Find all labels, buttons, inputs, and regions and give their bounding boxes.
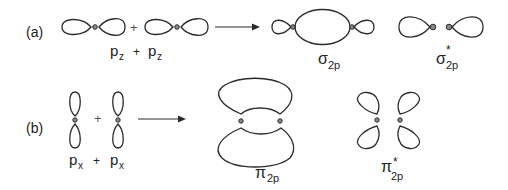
arrow-b	[138, 116, 186, 123]
sigma-star-2p-label: σ * 2p	[436, 43, 458, 71]
px1-nucleus	[73, 118, 77, 122]
svg-text:2p: 2p	[446, 59, 458, 71]
pi-star-bottom-right-lobe	[398, 126, 420, 149]
pi-star-bottom-left-lobe	[357, 126, 379, 149]
svg-text:p: p	[148, 42, 156, 59]
svg-text:*: *	[393, 155, 398, 169]
svg-text:z: z	[119, 51, 124, 62]
arrow-a	[215, 24, 260, 31]
pi-2p-label: π 2p	[255, 164, 279, 184]
part-b-label: (b)	[26, 120, 43, 136]
px-plus-px-label: p x + p x	[69, 151, 124, 171]
sigma-2p-label: σ 2p	[318, 50, 340, 71]
pi-star-2p-orbital	[357, 92, 419, 148]
pi-2p-orbital	[218, 78, 294, 167]
sigma-star-left-lobe	[399, 17, 430, 37]
px-orbital-1	[70, 92, 81, 148]
svg-text:π: π	[255, 164, 266, 181]
pi-star-nucleus-left	[375, 118, 379, 122]
sigma-2p-orbital	[272, 10, 374, 45]
svg-text:*: *	[446, 43, 451, 57]
px1-bottom-lobe	[70, 124, 81, 148]
sigma-left-minor-lobe	[272, 20, 291, 34]
part-a-label: (a)	[26, 24, 43, 40]
svg-text:+: +	[93, 154, 100, 168]
svg-text:σ: σ	[318, 50, 328, 67]
svg-text:x: x	[119, 160, 124, 171]
pz1-nucleus	[93, 25, 98, 30]
pi-bottom-lobe	[218, 128, 294, 167]
pz-plus-pz-label: p z + p z	[110, 42, 162, 62]
pz2-left-lobe	[145, 19, 173, 34]
pz1-left-lobe	[62, 19, 91, 34]
px2-nucleus	[116, 118, 120, 122]
svg-text:+: +	[133, 45, 140, 59]
pi-top-lobe	[219, 78, 292, 114]
sigma-central-lobe	[295, 10, 350, 45]
sigma-star-nucleus-left	[430, 24, 436, 30]
svg-text:p: p	[110, 151, 118, 168]
pi-star-nucleus-right	[398, 118, 402, 122]
sigma-star-right-lobe	[452, 17, 483, 37]
pz-orbital-2	[145, 19, 208, 36]
svg-text:2p: 2p	[328, 59, 340, 71]
pi-star-top-right-lobe	[398, 92, 420, 114]
pi-star-2p-label: π * 2p	[381, 155, 403, 182]
svg-text:2p: 2p	[267, 172, 279, 184]
pi-nucleus-right	[278, 119, 282, 123]
px2-bottom-lobe	[113, 124, 124, 148]
plus-sign-b: +	[94, 111, 102, 126]
svg-text:p: p	[110, 42, 118, 59]
pz2-right-lobe	[181, 19, 208, 36]
sigma-star-nucleus-right	[446, 24, 452, 30]
pz2-nucleus	[175, 25, 180, 30]
plus-sign-a: +	[130, 20, 138, 35]
sigma-star-2p-orbital	[399, 17, 483, 37]
pz1-right-lobe	[99, 19, 125, 36]
svg-text:z: z	[157, 51, 162, 62]
px1-top-lobe	[70, 92, 81, 116]
pi-nucleus-left	[239, 119, 243, 123]
svg-text:p: p	[69, 151, 77, 168]
svg-text:x: x	[78, 160, 83, 171]
px2-top-lobe	[113, 92, 124, 116]
mo-diagram: (a) + p z + p z σ 2p	[0, 0, 508, 190]
px-orbital-2	[113, 92, 124, 148]
svg-text:σ: σ	[436, 50, 446, 67]
pi-star-top-left-lobe	[357, 92, 379, 114]
pz-orbital-1	[62, 19, 125, 36]
svg-text:2p: 2p	[391, 170, 403, 182]
sigma-right-minor-lobe	[354, 20, 374, 34]
